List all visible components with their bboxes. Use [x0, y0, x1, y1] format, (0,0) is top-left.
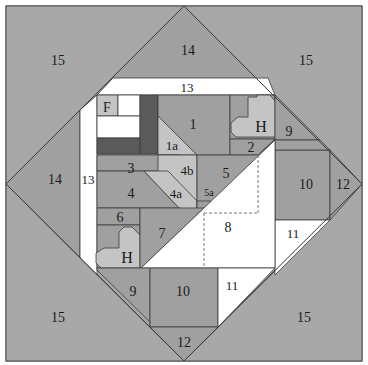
piece-label-F: F: [103, 100, 111, 115]
piece-label-15-tr: 15: [299, 53, 313, 68]
piece-label-4b: 4b: [181, 163, 194, 178]
piece-label-9-bottom: 9: [130, 284, 137, 299]
piece-white-top: [118, 95, 140, 116]
piece-label-7: 7: [159, 226, 166, 241]
piece-label-4: 4: [128, 186, 135, 201]
piece-label-9-top: 9: [286, 124, 293, 139]
piece-label-6: 6: [117, 210, 124, 225]
piece-label-13-left: 13: [82, 172, 95, 187]
piece-label-12-bottom: 12: [177, 335, 191, 350]
piece-label-10-bottom: 10: [176, 284, 190, 299]
piece-label-11-right: 11: [287, 226, 300, 241]
piece-label-14-left: 14: [48, 172, 62, 187]
piece-label-4a: 4a: [170, 186, 183, 201]
piece-dark-vert: [140, 95, 158, 154]
piece-label-12-right: 12: [336, 177, 350, 192]
pattern-canvas: 1515151514141313F11aH2910121134b44a55a6H…: [0, 0, 368, 365]
piece-dark-horiz: [97, 138, 140, 154]
piece-label-13-top: 13: [181, 80, 194, 95]
quilt-pattern-diagram: 1515151514141313F11aH2910121134b44a55a6H…: [0, 0, 368, 365]
piece-label-5: 5: [223, 166, 230, 181]
piece-label-15-br: 15: [297, 310, 311, 325]
piece-label-10-right: 10: [299, 177, 313, 192]
piece-label-1a: 1a: [166, 138, 179, 153]
piece-label-15-tl: 15: [51, 53, 65, 68]
piece-label-11-bottom: 11: [226, 278, 239, 293]
piece-label-14-top: 14: [181, 43, 195, 58]
piece-label-H-bottom: H: [121, 249, 133, 266]
piece-label-1: 1: [190, 117, 197, 132]
piece-label-15-bl: 15: [51, 310, 65, 325]
piece-9-right-fill: [275, 140, 330, 150]
piece-label-3: 3: [128, 161, 135, 176]
piece-white-mid: [97, 116, 140, 138]
piece-label-H-top: H: [255, 118, 267, 135]
piece-label-8: 8: [225, 220, 232, 235]
piece-label-5a: 5a: [204, 187, 214, 198]
piece-label-2: 2: [248, 140, 255, 155]
